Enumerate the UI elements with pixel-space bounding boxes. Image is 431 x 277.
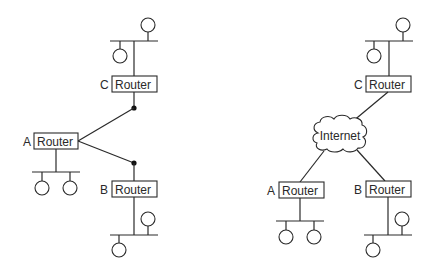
host-icon	[279, 230, 293, 244]
host-icon	[366, 243, 380, 257]
left-router-c-lan	[110, 18, 158, 76]
router-c-text: Router	[115, 78, 151, 92]
right-diagram: C Router Internet A Router B	[267, 18, 413, 257]
host-icon	[112, 243, 126, 257]
right-router-a-lan	[276, 198, 324, 244]
host-icon	[113, 49, 127, 63]
host-icon	[63, 181, 77, 195]
host-icon	[141, 212, 155, 226]
router-b-label: B	[100, 183, 108, 197]
right-router-b: B Router	[354, 181, 411, 197]
host-icon	[395, 212, 409, 226]
left-router-b-lan	[110, 197, 158, 257]
link-a-b	[78, 141, 134, 163]
host-icon	[141, 18, 155, 32]
internet-label: Internet	[320, 129, 361, 143]
left-diagram: C Router A Router B Rou	[23, 18, 158, 257]
right-router-b-lan	[364, 197, 412, 257]
host-icon	[367, 49, 381, 63]
link-b-internet	[357, 150, 385, 181]
router-c-text: Router	[369, 78, 405, 92]
link-a-internet	[300, 151, 324, 182]
host-icon	[307, 230, 321, 244]
router-a-label: A	[23, 135, 31, 149]
router-b-label: B	[354, 183, 362, 197]
network-diagram: C Router A Router B Rou	[0, 0, 431, 277]
router-c-label: C	[354, 78, 363, 92]
host-icon	[396, 18, 410, 32]
router-a-text: Router	[37, 135, 73, 149]
left-router-a: A Router	[23, 133, 78, 149]
right-router-c-lan	[365, 18, 413, 76]
left-router-a-lan	[32, 149, 80, 195]
link-c-internet	[352, 92, 388, 122]
left-router-c: C Router	[100, 76, 157, 92]
host-icon	[35, 181, 49, 195]
router-a-text: Router	[282, 184, 318, 198]
right-router-c: C Router	[354, 76, 411, 92]
internet-cloud: Internet	[313, 115, 367, 152]
router-a-label: A	[267, 184, 275, 198]
router-c-label: C	[100, 78, 109, 92]
left-router-b: B Router	[100, 181, 157, 197]
router-b-text: Router	[369, 183, 405, 197]
router-b-text: Router	[115, 183, 151, 197]
right-router-a: A Router	[267, 182, 324, 198]
link-a-c	[78, 108, 134, 141]
